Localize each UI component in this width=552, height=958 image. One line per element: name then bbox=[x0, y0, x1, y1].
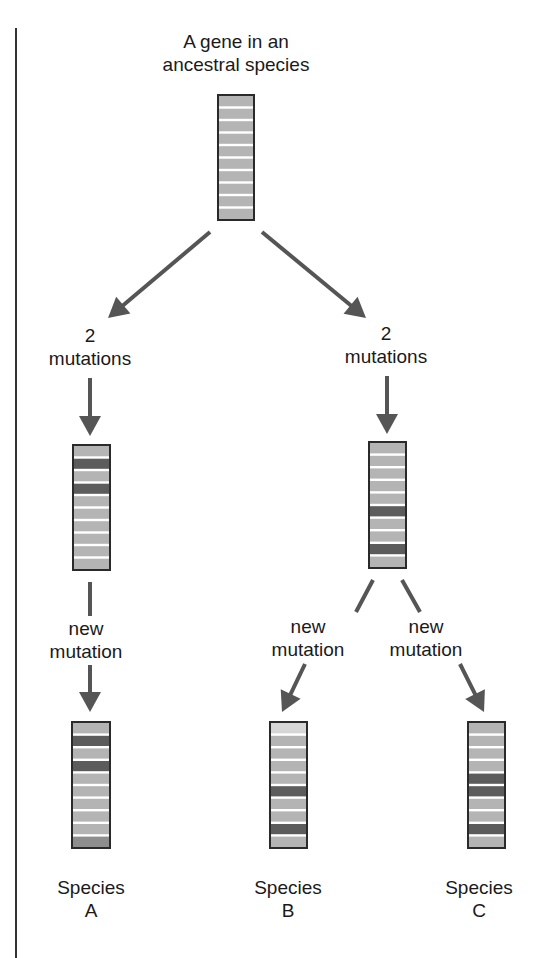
gene-phylogeny-diagram bbox=[0, 0, 552, 958]
segment-separator bbox=[468, 784, 505, 786]
gene-segment bbox=[218, 120, 254, 133]
segment-separator bbox=[73, 519, 110, 521]
segment-separator bbox=[468, 796, 505, 798]
segment-separator bbox=[73, 506, 110, 508]
gene-segment bbox=[218, 195, 254, 208]
arrow-ancestral-to-left bbox=[108, 232, 210, 318]
gene-segment bbox=[73, 520, 110, 533]
mutations-text: mutations bbox=[40, 347, 140, 370]
arrow-right-gene-stem-to-b bbox=[356, 580, 373, 612]
new-text: new bbox=[36, 617, 136, 640]
segment-separator bbox=[73, 456, 110, 458]
segment-separator bbox=[73, 469, 110, 471]
segment-separator bbox=[369, 529, 406, 531]
segment-separator bbox=[270, 809, 307, 811]
species-a-label: Species A bbox=[41, 876, 141, 922]
mutation-text: mutation bbox=[258, 638, 358, 661]
gene-segment bbox=[73, 533, 110, 546]
segment-separator bbox=[369, 554, 406, 556]
segment-separator bbox=[468, 746, 505, 748]
segment-separator bbox=[218, 119, 254, 121]
segment-separator bbox=[369, 453, 406, 455]
arrow-left-mutations-to-gene bbox=[79, 378, 101, 436]
genes bbox=[72, 95, 505, 848]
mutated-segment bbox=[270, 823, 307, 836]
mutated-segment bbox=[72, 760, 110, 773]
gene-segment bbox=[270, 747, 307, 760]
gene-segment bbox=[72, 785, 110, 798]
new-text: new bbox=[376, 615, 476, 638]
arrow-shaft bbox=[356, 580, 373, 612]
species-b-label: Species B bbox=[238, 876, 338, 922]
arrow-shaft bbox=[289, 664, 305, 698]
segment-separator bbox=[72, 746, 110, 748]
segment-separator bbox=[72, 784, 110, 786]
arrow-right-new-to-species-b bbox=[281, 664, 305, 712]
left-new-mutation-label: new mutation bbox=[36, 617, 136, 663]
segment-separator bbox=[72, 759, 110, 761]
mutated-segment bbox=[270, 785, 307, 798]
arrow-shaft bbox=[402, 580, 420, 612]
gene-segment bbox=[72, 823, 110, 836]
species-word: Species bbox=[238, 876, 338, 899]
segment-separator bbox=[369, 542, 406, 544]
segment-separator bbox=[218, 194, 254, 196]
segment-separator bbox=[468, 809, 505, 811]
segment-separator bbox=[270, 771, 307, 773]
gene-ancestral bbox=[218, 95, 254, 220]
title-line-2: ancestral species bbox=[136, 53, 336, 76]
segment-separator bbox=[369, 491, 406, 493]
gene-segment bbox=[369, 442, 406, 455]
ancestral-gene-title: A gene in an ancestral species bbox=[136, 30, 336, 76]
count-text: 2 bbox=[336, 322, 436, 345]
gene-segment bbox=[270, 798, 307, 811]
gene-segment bbox=[369, 530, 406, 543]
gene-segment bbox=[73, 495, 110, 508]
arrow-ancestral-to-right bbox=[262, 232, 366, 318]
gene-segment bbox=[73, 508, 110, 521]
segment-separator bbox=[270, 733, 307, 735]
segment-separator bbox=[72, 834, 110, 836]
segment-separator bbox=[72, 733, 110, 735]
gene-segment bbox=[218, 133, 254, 146]
gene-segment bbox=[72, 835, 110, 848]
gene-segment bbox=[270, 810, 307, 823]
segment-separator bbox=[468, 771, 505, 773]
segment-separator bbox=[270, 834, 307, 836]
segment-separator bbox=[270, 784, 307, 786]
segment-separator bbox=[72, 796, 110, 798]
mutated-segment bbox=[468, 772, 505, 785]
gene-segment bbox=[468, 798, 505, 811]
segment-separator bbox=[468, 834, 505, 836]
segment-separator bbox=[73, 531, 110, 533]
segment-separator bbox=[468, 759, 505, 761]
gene-segment bbox=[468, 810, 505, 823]
mutation-text: mutation bbox=[376, 638, 476, 661]
gene-segment bbox=[218, 95, 254, 108]
arrow-left-new-to-species-a bbox=[79, 665, 101, 712]
segment-separator bbox=[369, 479, 406, 481]
gene-segment bbox=[468, 722, 505, 735]
mutated-segment bbox=[73, 458, 110, 471]
species-c-label: Species C bbox=[429, 876, 529, 922]
segment-separator bbox=[72, 809, 110, 811]
segment-separator bbox=[73, 556, 110, 558]
segment-separator bbox=[73, 544, 110, 546]
gene-segment bbox=[73, 558, 110, 571]
gene-segment bbox=[73, 470, 110, 483]
mutation-text: mutation bbox=[36, 640, 136, 663]
arrow-head-icon bbox=[79, 416, 101, 436]
species-word: Species bbox=[41, 876, 141, 899]
gene-segment bbox=[369, 480, 406, 493]
arrow-shaft bbox=[262, 232, 354, 308]
gene-segment bbox=[468, 735, 505, 748]
count-text: 2 bbox=[40, 324, 140, 347]
gene-segment bbox=[270, 735, 307, 748]
gene-segment bbox=[270, 772, 307, 785]
gene-segment bbox=[218, 170, 254, 183]
mutated-segment bbox=[369, 543, 406, 556]
arrow-shaft bbox=[460, 664, 477, 698]
gene-segment bbox=[72, 747, 110, 760]
gene-segment bbox=[270, 835, 307, 848]
segment-separator bbox=[218, 169, 254, 171]
